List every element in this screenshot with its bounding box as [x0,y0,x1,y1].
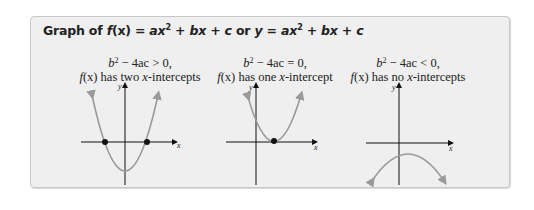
x-axis-label: x [176,141,181,150]
condition-text: b2 − 4ac < 0, [328,54,488,70]
graph-no-intercepts: x y [353,77,483,187]
y-axis-label: y [117,82,122,91]
title-eq2: = [262,23,281,38]
title-rest2: + bx + c [303,23,364,38]
graph-one-intercept: x y [211,77,331,187]
title-rest: + bx + c [171,23,232,38]
y-axis-label: y [391,83,396,92]
title-prefix: Graph of [43,23,107,38]
y-axis-label: y [248,83,253,92]
quadratic-graph-panel: Graph of f(x) = ax2 + bx + c or y = ax2 … [30,16,510,188]
panel-title: Graph of f(x) = ax2 + bx + c or y = ax2 … [43,23,363,38]
title-eq1: = [131,23,150,38]
x-axis-label: x [448,144,453,153]
graph-two-intercepts: x y [81,77,201,187]
title-or: or [232,23,255,38]
title-ax: ax [149,23,165,38]
x-intercept-point [144,139,150,145]
title-x: (x) [112,23,131,38]
parabola-down [372,154,444,181]
x-intercept-point [102,139,108,145]
x-intercept-point [271,138,277,144]
x-axis-label: x [313,143,318,152]
title-ax2: ax [281,23,297,38]
